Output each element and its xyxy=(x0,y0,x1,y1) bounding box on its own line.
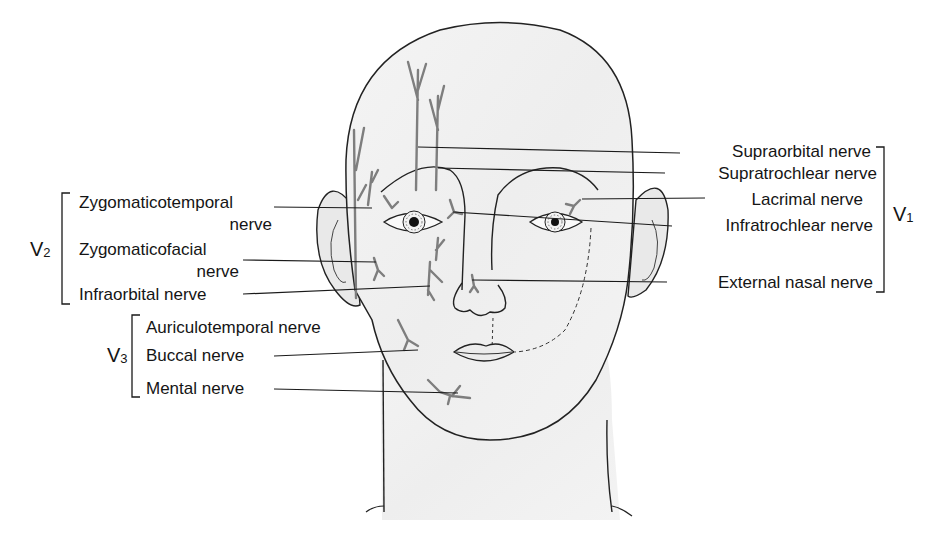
label-zygomaticotemporal-nerve: Zygomaticotemporal xyxy=(79,193,233,213)
group-label-v1: V1 xyxy=(893,203,914,226)
label-auriculotemporal-nerve: Auriculotemporal nerve xyxy=(146,318,321,338)
right-ear xyxy=(628,188,668,297)
label-infratrochlear-nerve: Infratrochlear nerve xyxy=(726,216,873,236)
label-buccal-nerve: Buccal nerve xyxy=(146,346,244,366)
label-zygomaticotemporal-nerve-line2: nerve xyxy=(229,215,272,235)
label-lacrimal-nerve: Lacrimal nerve xyxy=(752,190,864,210)
head-illustration xyxy=(0,0,936,534)
label-external-nasal-nerve: External nasal nerve xyxy=(718,273,873,293)
label-mental-nerve: Mental nerve xyxy=(146,379,244,399)
label-zygomaticofacial-nerve-line2: nerve xyxy=(196,262,239,282)
label-zygomaticofacial-nerve: Zygomaticofacial xyxy=(79,240,207,260)
label-supraorbital-nerve: Supraorbital nerve xyxy=(732,142,871,162)
group-label-v3: V3 xyxy=(107,344,128,367)
label-infraorbital-nerve: Infraorbital nerve xyxy=(79,285,207,305)
group-label-v2: V2 xyxy=(30,238,51,261)
label-supratrochlear-nerve: Supratrochlear nerve xyxy=(718,164,877,184)
facial-nerves-diagram: Supraorbital nerve Supratrochlear nerve … xyxy=(0,0,936,534)
